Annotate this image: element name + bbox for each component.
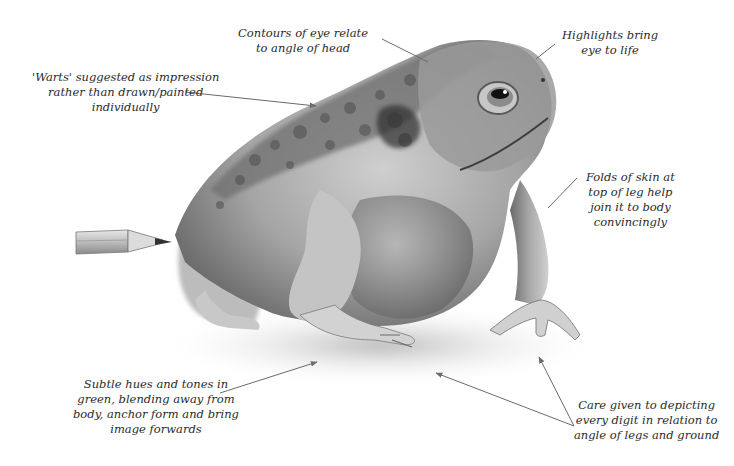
- annotation-line: green, blending away from: [73, 392, 239, 407]
- annotation-line: Subtle hues and tones in: [73, 377, 239, 392]
- annotation-line: body, anchor form and bring: [73, 407, 239, 422]
- nostril: [541, 78, 545, 82]
- pencil-icon: [76, 230, 172, 254]
- annotation-digits: Care given to depicting every digit in r…: [574, 398, 719, 443]
- annotation-line: eye to life: [562, 43, 658, 58]
- annotation-highlights: Highlights bring eye to life: [562, 28, 658, 58]
- annotation-eye-contours: Contours of eye relate to angle of head: [238, 26, 368, 56]
- annotation-line: rather than drawn/painted: [32, 85, 219, 100]
- annotation-line: 'Warts' suggested as impression: [32, 70, 219, 85]
- annotated-illustration: Contours of eye relate to angle of head …: [0, 0, 734, 466]
- annotation-line: to angle of head: [238, 41, 368, 56]
- annotation-line: Folds of skin at: [586, 170, 675, 185]
- annotation-line: image forwards: [73, 422, 239, 437]
- annotation-line: Contours of eye relate: [238, 26, 368, 41]
- eye-highlight: [503, 90, 507, 94]
- annotation-subtle-hues: Subtle hues and tones in green, blending…: [73, 377, 239, 437]
- annotation-line: Care given to depicting: [574, 398, 719, 413]
- annotation-line: convincingly: [586, 215, 675, 230]
- annotation-warts: 'Warts' suggested as impression rather t…: [32, 70, 219, 115]
- annotation-line: every digit in relation to: [574, 413, 719, 428]
- annotation-line: top of leg help: [586, 185, 675, 200]
- annotation-skin-folds: Folds of skin at top of leg help join it…: [586, 170, 675, 230]
- annotation-line: angle of legs and ground: [574, 428, 719, 443]
- annotation-line: individually: [32, 100, 219, 115]
- annotation-line: join it to body: [586, 200, 675, 215]
- far-front-leg: [510, 180, 548, 305]
- annotation-line: Highlights bring: [562, 28, 658, 43]
